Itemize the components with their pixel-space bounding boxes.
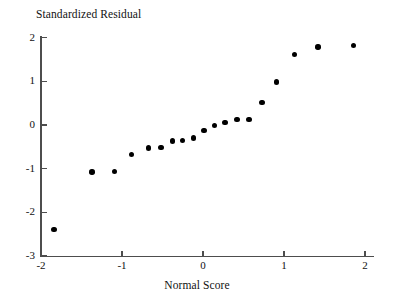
data-point <box>112 169 117 174</box>
data-point <box>212 123 217 128</box>
x-tick-label: 2 <box>353 259 377 271</box>
x-tick-mark <box>40 251 41 256</box>
y-tick-label: -1 <box>11 162 35 174</box>
y-axis-line <box>40 36 42 257</box>
y-tick-mark <box>42 255 47 256</box>
data-point <box>146 145 151 150</box>
x-tick-label: 1 <box>272 259 296 271</box>
data-point <box>246 117 251 122</box>
data-point <box>315 44 320 49</box>
y-tick-label: 0 <box>11 118 35 130</box>
data-point <box>234 117 239 122</box>
scatter-chart: Standardized Residual 210-1-2-3 -2-1012 … <box>0 0 394 301</box>
data-point <box>292 52 297 57</box>
data-point <box>222 120 227 125</box>
y-tick-label: 2 <box>11 31 35 43</box>
y-tick-mark <box>42 212 47 213</box>
data-point <box>170 138 175 143</box>
data-point <box>89 169 94 174</box>
x-tick-label: -2 <box>29 259 53 271</box>
x-axis-title: Normal Score <box>0 279 394 291</box>
y-tick-mark <box>42 124 47 125</box>
x-axis-line <box>40 256 374 258</box>
data-point <box>274 79 279 84</box>
data-point <box>51 227 56 232</box>
y-axis-title: Standardized Residual <box>36 8 141 20</box>
y-tick-mark <box>42 168 47 169</box>
x-tick-mark <box>364 251 365 256</box>
data-point <box>129 152 134 157</box>
x-tick-label: -1 <box>110 259 134 271</box>
y-tick-mark <box>42 37 47 38</box>
x-tick-mark <box>202 251 203 256</box>
x-tick-label: 0 <box>191 259 215 271</box>
data-point <box>191 135 196 140</box>
y-tick-label: 1 <box>11 74 35 86</box>
data-point <box>158 145 163 150</box>
y-tick-mark <box>42 81 47 82</box>
x-tick-mark <box>283 251 284 256</box>
data-point <box>259 100 264 105</box>
data-point <box>180 138 185 143</box>
x-tick-mark <box>121 251 122 256</box>
data-point <box>201 128 206 133</box>
y-tick-label: -2 <box>11 205 35 217</box>
data-point <box>351 43 356 48</box>
